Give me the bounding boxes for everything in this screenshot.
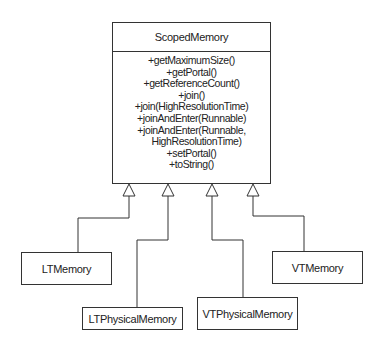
method: +toString() bbox=[113, 159, 270, 171]
class-name: ScopedMemory bbox=[113, 23, 270, 52]
method-list: +getMaximumSize() +getPortal() +getRefer… bbox=[113, 52, 270, 171]
connector-ltmemory bbox=[78, 196, 129, 252]
generalization-arrow-icon bbox=[162, 184, 174, 196]
class-name: VTPhysicalMemory bbox=[198, 298, 297, 329]
method: +joinAndEnter(Runnable) bbox=[113, 113, 270, 125]
method-continuation: HighResolutionTime) bbox=[113, 136, 270, 148]
connector-vtmemory bbox=[253, 196, 304, 251]
class-name: VTMemory bbox=[273, 252, 362, 283]
generalization-arrow-icon bbox=[206, 184, 218, 196]
generalization-arrow-icon bbox=[123, 184, 135, 196]
connector-vtphysicalmemory bbox=[212, 196, 243, 297]
class-name: LTMemory bbox=[22, 253, 111, 284]
class-name: LTPhysicalMemory bbox=[83, 308, 182, 329]
class-vtmemory: VTMemory bbox=[272, 251, 363, 284]
method: +getMaximumSize() bbox=[113, 55, 270, 67]
connector-ltphysicalmemory bbox=[137, 196, 168, 307]
class-vtphysicalmemory: VTPhysicalMemory bbox=[197, 297, 298, 330]
class-scopedmemory: ScopedMemory +getMaximumSize() +getPorta… bbox=[112, 22, 271, 184]
class-ltphysicalmemory: LTPhysicalMemory bbox=[82, 307, 183, 330]
generalization-arrow-icon bbox=[247, 184, 259, 196]
class-ltmemory: LTMemory bbox=[21, 252, 112, 285]
